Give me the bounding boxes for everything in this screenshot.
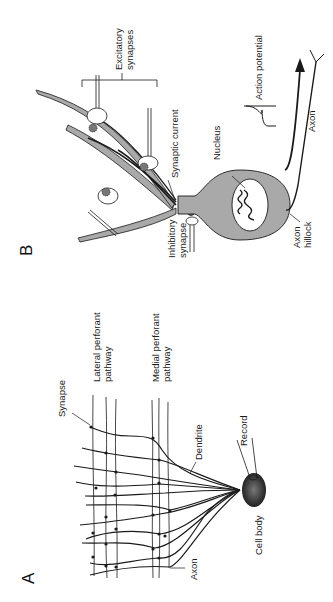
synapse-label: Synapse (56, 380, 67, 417)
excitatory-bracket (82, 73, 157, 87)
propagation-arrow (285, 70, 300, 170)
arrowhead-icon (295, 58, 305, 72)
neuron-figure: B Excitatory synapses (0, 0, 333, 602)
axon-hillock-label-2: hillock (302, 221, 313, 248)
perforant-pathway-lines (93, 395, 169, 578)
panel-label-b: B (17, 245, 36, 256)
dendrites-a (74, 427, 240, 575)
panel-b: B Excitatory synapses (17, 28, 324, 258)
axon-label-a: Axon (188, 558, 199, 580)
medial-pathway-label-1: Medial perforant (150, 313, 161, 382)
axon-b (286, 62, 316, 210)
axon-hillock-label-1: Axon (291, 226, 302, 248)
cell-body-label: Cell body (253, 515, 264, 555)
nucleus (232, 179, 268, 231)
excitatory-synapses-label-2: synapses (124, 30, 135, 70)
medial-pathway-label-2: pathway (161, 346, 172, 382)
action-potential-label: Action potential (253, 35, 264, 100)
lateral-pathway-label-1: Lateral perforant (91, 312, 102, 382)
dendrite-label: Dendrite (193, 424, 204, 460)
record-label: Record (238, 415, 249, 446)
panel-a: A Lateral perforant pathway Medial perfo… (19, 312, 266, 584)
action-potential-trace (244, 106, 276, 126)
panel-label-a: A (19, 572, 38, 584)
axon-label-b: Axon (306, 110, 317, 132)
inhibitory-synapse-label-2: synapse (177, 223, 188, 258)
cell-body-a (242, 473, 266, 507)
excitatory-synapses-label-1: Excitatory (113, 28, 124, 70)
inhibitory-synapse-label-1: Inhibitory (166, 219, 177, 258)
nucleus-label: Nucleus (211, 125, 222, 160)
lateral-pathway-label-2: pathway (102, 346, 113, 382)
synaptic-current-label: Synaptic current (169, 109, 180, 178)
